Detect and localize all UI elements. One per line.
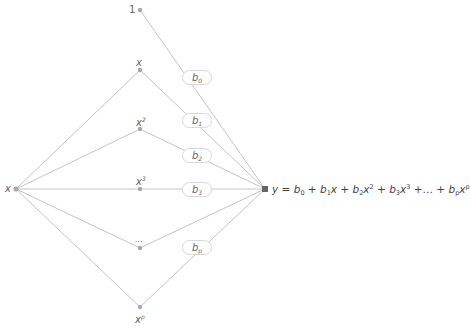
feature-label-ellipsis: …: [135, 236, 143, 244]
input-label: x: [5, 184, 11, 194]
weight-box-b1: b1: [182, 113, 212, 128]
weight-box-b3: b3: [182, 182, 212, 197]
feature-node-1: [138, 68, 142, 72]
feature-label-3: x3: [136, 176, 146, 187]
bias-node: [138, 8, 142, 12]
input-node: [14, 187, 19, 192]
feature-node-ellipsis: [138, 246, 142, 250]
feature-node-p: [138, 305, 142, 309]
feature-label-2: x2: [136, 117, 146, 128]
feature-label-p: xp: [135, 314, 145, 325]
weight-box-bp: bp: [182, 240, 212, 255]
output-formula: y = b0 + b1x + b2x2 + b3x3 +… + bpxp: [272, 183, 470, 197]
bias-label: 1: [129, 5, 135, 15]
output-node: [262, 186, 268, 192]
feature-node-3: [138, 187, 142, 191]
weight-box-b0: b0: [182, 70, 212, 85]
feature-label-1: x: [136, 57, 142, 68]
weight-box-b2: b2: [182, 148, 212, 163]
